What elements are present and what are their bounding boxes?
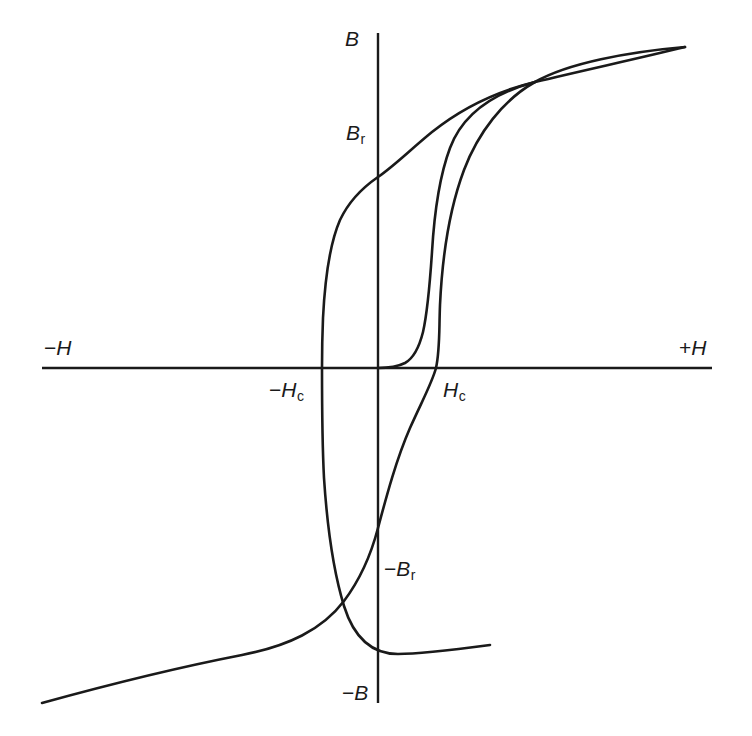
hysteresis-figure: B −B −H +H Br −Br −Hc Hc	[0, 0, 752, 736]
axis-label-b-positive: B	[345, 28, 359, 49]
coercivity-var: H	[443, 378, 458, 401]
axis-label-b-negative: −B	[342, 682, 368, 703]
label-coercivity-positive: Hc	[443, 379, 465, 400]
neg-coercivity-subscript: c	[297, 388, 304, 404]
b-negative-sign: −	[342, 681, 354, 704]
label-coercivity-negative: −Hc	[269, 379, 303, 400]
initial-magnetization-curve	[378, 82, 535, 368]
label-remanence-positive: Br	[346, 122, 365, 143]
neg-remanence-sign: −	[384, 557, 396, 580]
neg-remanence-var: B	[396, 557, 410, 580]
hysteresis-plot-svg	[0, 0, 752, 736]
neg-remanence-subscript: r	[411, 567, 416, 583]
axis-label-h-negative: −H	[44, 337, 71, 358]
coercivity-subscript: c	[459, 388, 466, 404]
descending-branch-curve	[322, 47, 685, 654]
neg-coercivity-var: H	[281, 378, 296, 401]
h-positive-var: H	[691, 336, 706, 359]
label-remanence-negative: −Br	[384, 558, 415, 579]
axis-label-h-positive: +H	[679, 337, 706, 358]
h-negative-var: H	[56, 336, 71, 359]
h-positive-sign: +	[679, 336, 691, 359]
h-negative-sign: −	[44, 336, 56, 359]
b-negative-var: B	[354, 681, 368, 704]
neg-coercivity-sign: −	[269, 378, 281, 401]
remanence-subscript: r	[361, 131, 366, 147]
remanence-var: B	[346, 121, 360, 144]
